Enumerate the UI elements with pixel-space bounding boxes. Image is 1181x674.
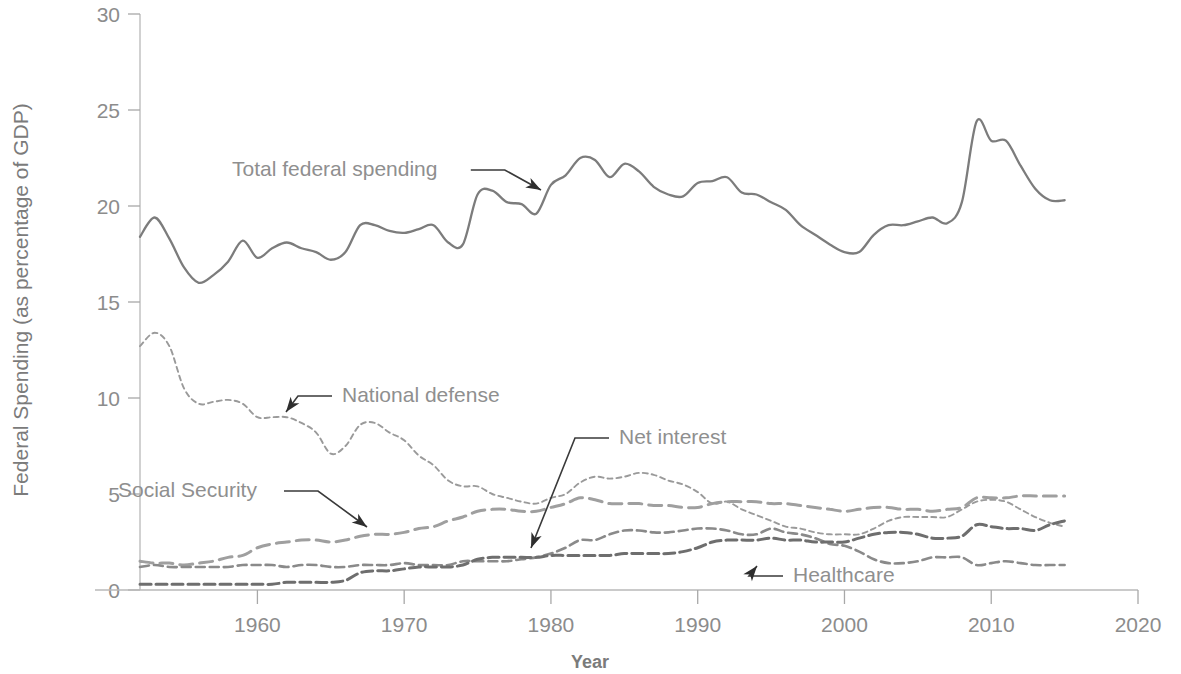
annotation-leader-social-security (284, 491, 367, 527)
annotation-leader-net-interest (531, 438, 609, 548)
annotation-arrowhead-healthcare (743, 563, 761, 582)
annotation-arrowhead-national-defense (282, 397, 300, 416)
y-axis-title: Federal Spending (as percentage of GDP) (9, 103, 32, 496)
x-axis: 1960197019801990200020102020 (95, 590, 1161, 636)
y-tick-label: 15 (97, 291, 120, 314)
series-line-total-federal-spending (140, 119, 1065, 283)
annotation-arrowhead-total-federal-spending (525, 178, 543, 195)
x-tick-label: 1990 (674, 613, 721, 636)
x-axis-title: Year (571, 652, 609, 672)
chart-container: 051015202530 196019701980199020002010202… (0, 0, 1181, 674)
y-tick-label: 10 (97, 387, 120, 410)
series-label-total-federal-spending: Total federal spending (232, 157, 437, 180)
annotation-arrowhead-net-interest (526, 532, 542, 550)
data-series-group (140, 119, 1065, 584)
x-tick-label: 1970 (381, 613, 428, 636)
x-tick-label: 1980 (528, 613, 575, 636)
series-line-national-defense (140, 333, 1065, 535)
x-tick-label: 2010 (968, 613, 1015, 636)
series-line-net-interest (140, 528, 1065, 567)
x-tick-label: 2020 (1115, 613, 1162, 636)
annotations-group: Total federal spendingNational defenseNe… (118, 157, 895, 586)
x-tick-label: 1960 (234, 613, 281, 636)
y-tick-label: 20 (97, 195, 120, 218)
y-tick-label: 30 (97, 3, 120, 26)
y-tick-label: 25 (97, 99, 120, 122)
series-label-social-security: Social Security (118, 478, 257, 501)
x-tick-label: 2000 (821, 613, 868, 636)
series-label-net-interest: Net interest (619, 425, 727, 448)
y-axis: 051015202530 (97, 3, 140, 602)
series-line-healthcare (140, 521, 1065, 585)
series-label-healthcare: Healthcare (793, 563, 895, 586)
series-label-national-defense: National defense (342, 383, 500, 406)
annotation-arrowhead-social-security (352, 514, 371, 532)
federal-spending-line-chart: 051015202530 196019701980199020002010202… (0, 0, 1181, 674)
